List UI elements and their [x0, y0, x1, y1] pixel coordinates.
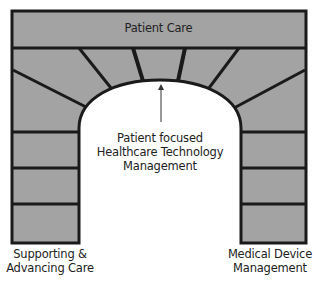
- right-pillar-label: Medical Device Management: [222, 247, 316, 275]
- center-label-line: Healthcare Technology: [90, 145, 230, 159]
- cropped-caption: [30, 283, 290, 291]
- right-pillar-label-line: Management: [222, 261, 316, 275]
- center-label: Patient focused Healthcare Technology Ma…: [90, 131, 230, 173]
- left-pillar-label-line: Supporting &: [0, 247, 100, 261]
- left-pillar-label: Supporting & Advancing Care: [0, 247, 100, 275]
- right-pillar-label-line: Medical Device: [222, 247, 316, 261]
- left-pillar-label-line: Advancing Care: [0, 261, 100, 275]
- arch-stone-body: [12, 11, 306, 243]
- center-label-line: Patient focused: [90, 131, 230, 145]
- patient-care-label: Patient Care: [11, 21, 306, 35]
- center-label-line: Management: [90, 159, 230, 173]
- up-arrow-icon: [158, 84, 164, 122]
